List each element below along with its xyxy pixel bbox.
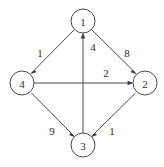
edge-weight-1-4: 1 bbox=[37, 47, 43, 59]
edge-weight-3-1: 4 bbox=[90, 41, 96, 53]
node-label-4: 4 bbox=[19, 78, 25, 90]
node-label-1: 1 bbox=[80, 16, 86, 28]
edge-4-to-2 bbox=[34, 81, 133, 86]
node-label-2: 2 bbox=[142, 78, 148, 90]
node-4: 4 bbox=[10, 71, 34, 95]
node-1: 1 bbox=[71, 9, 95, 33]
arrowhead-3-1 bbox=[81, 33, 86, 39]
edge-weight-4-3: 9 bbox=[49, 125, 55, 137]
node-2: 2 bbox=[133, 71, 157, 95]
edge-group bbox=[30, 30, 137, 138]
node-label-3: 3 bbox=[80, 140, 86, 152]
node-3: 3 bbox=[71, 133, 95, 157]
edge-weight-2-3: 1 bbox=[109, 125, 115, 137]
arrowhead-4-2 bbox=[128, 81, 134, 86]
graph-canvas: 1 8 2 4 9 1 1 2 3 4 bbox=[0, 0, 164, 167]
edge-1-to-2 bbox=[92, 30, 137, 75]
edge-weight-4-2: 2 bbox=[103, 67, 109, 79]
graph-diagram: 1 8 2 4 9 1 1 2 3 4 bbox=[0, 0, 164, 167]
edge-weight-group: 1 8 2 4 9 1 bbox=[37, 41, 130, 137]
edge-weight-1-2: 8 bbox=[124, 47, 130, 59]
